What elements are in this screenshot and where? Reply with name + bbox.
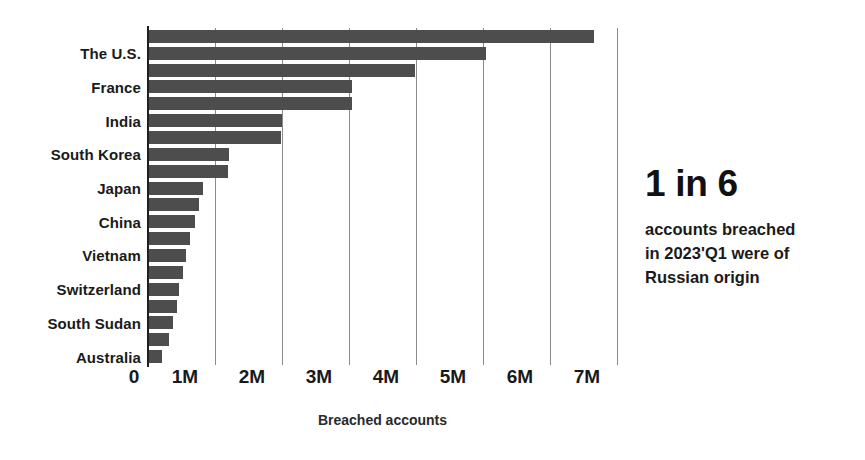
y-tick-label: Vietnam [82,247,141,264]
x-tick-label: 0 [129,366,140,388]
x-axis-tick-labels: 01M2M3M4M5M6M7M [0,366,700,396]
bar [148,249,186,262]
bar-fill [148,283,179,296]
bar [148,148,229,161]
callout-headline: 1 in 6 [645,165,860,202]
y-tick-label: France [91,78,141,95]
x-tick-label: 3M [306,366,332,388]
callout-body-line-3: Russian origin [645,266,860,290]
gridline-1M [215,28,216,365]
bar [148,316,173,329]
stat-callout: 1 in 6 accounts breached in 2023'Q1 were… [645,165,860,290]
chart-plot-area [148,28,617,365]
gridline-7M [617,28,618,365]
bar-fill [148,64,415,77]
gridline-3M [349,28,350,365]
y-tick-label: India [105,112,141,129]
bar [148,64,415,77]
bar-fill [148,350,162,363]
bar [148,30,594,43]
y-tick-label: Switzerland [57,281,141,298]
y-axis-spine [147,26,149,367]
bar [148,97,352,110]
y-tick-label: Japan [97,180,141,197]
bar-fill [148,182,203,195]
gridline-4M [416,28,417,365]
bar [148,283,179,296]
bar-fill [148,316,173,329]
bar [148,198,199,211]
bar [148,333,169,346]
x-tick-label: 6M [507,366,533,388]
bar-fill [148,333,169,346]
bar-fill [148,131,281,144]
gridline-5M [483,28,484,365]
bar-fill [148,266,183,279]
y-tick-label: China [99,213,141,230]
y-axis-tick-labels: The U.S.FranceIndiaSouth KoreaJapanChina… [0,28,141,365]
bar-fill [148,198,199,211]
callout-body: accounts breached in 2023'Q1 were of Rus… [645,218,860,290]
callout-body-line-1: accounts breached [645,218,860,242]
breached-accounts-figure: The U.S.FranceIndiaSouth KoreaJapanChina… [0,0,865,460]
y-tick-label: South Sudan [47,314,141,331]
bar [148,114,282,127]
y-tick-label: Australia [76,348,141,365]
gridline-2M [282,28,283,365]
bar-fill [148,165,228,178]
bar [148,165,228,178]
bar-fill [148,300,177,313]
x-tick-label: 5M [440,366,466,388]
bar [148,232,190,245]
y-tick-label: South Korea [51,146,141,163]
bar [148,215,195,228]
bar-fill [148,97,352,110]
x-tick-label: 1M [172,366,198,388]
x-tick-label: 7M [574,366,600,388]
gridline-6M [550,28,551,365]
bar-fill [148,30,594,43]
bar [148,131,281,144]
bar [148,350,162,363]
bar [148,266,183,279]
bar [148,300,177,313]
bar-fill [148,114,282,127]
bar-fill [148,215,195,228]
bar [148,47,486,60]
bar [148,80,352,93]
bar-fill [148,249,186,262]
x-axis-title: Breached accounts [148,412,617,428]
bar-fill [148,47,486,60]
y-tick-label: The U.S. [80,45,141,62]
bar-fill [148,80,352,93]
bar-fill [148,232,190,245]
x-tick-label: 2M [239,366,265,388]
bar [148,182,203,195]
callout-body-line-2: in 2023'Q1 were of [645,242,860,266]
bar-fill [148,148,229,161]
x-tick-label: 4M [373,366,399,388]
